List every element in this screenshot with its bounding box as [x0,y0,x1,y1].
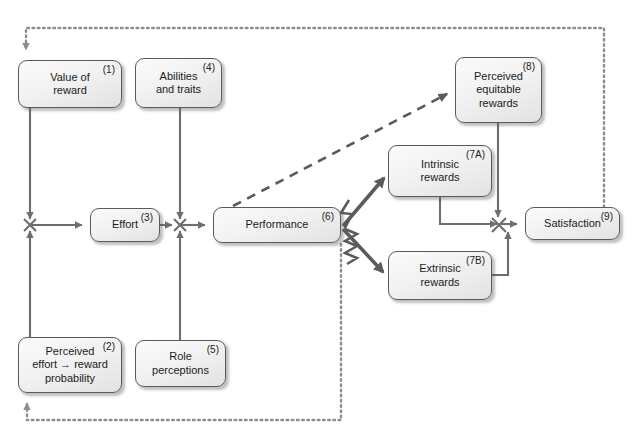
node-label: Satisfaction [538,217,607,231]
node-number: (1) [103,64,115,75]
node-label: Role perceptions [146,350,215,377]
wire-performance-to-intrinsic-rewards [341,178,384,228]
node-label: Value of reward [44,71,96,98]
node-number: (6) [322,211,334,222]
node-label: Perceived equitable rewards [468,70,529,111]
node-perceived-effort-reward-probability[interactable]: (2) Perceived effort → reward probabilit… [18,337,122,393]
node-abilities-and-traits[interactable]: (4) Abilities and traits [135,58,222,108]
node-label: Extrinsic rewards [413,262,467,289]
node-label: Perceived effort → reward probability [26,345,114,386]
node-number: (3) [141,212,153,223]
node-effort[interactable]: (3) Effort [90,208,160,242]
node-label: Intrinsic rewards [414,158,465,185]
node-intrinsic-rewards[interactable]: (7A) Intrinsic rewards [388,145,492,197]
node-number: (5) [207,344,219,355]
node-number: (8) [523,61,535,72]
node-perceived-equitable-rewards[interactable]: (8) Perceived equitable rewards [455,57,542,123]
wire-extrinsic-rewards-to-satisfaction-junction [492,232,508,275]
diagram-canvas: (1) Value of reward (4) Abilities and tr… [0,0,638,440]
wire-performance-to-extrinsic-rewards [343,229,383,272]
node-number: (7A) [466,149,485,160]
node-value-of-reward[interactable]: (1) Value of reward [18,60,122,108]
node-role-perceptions[interactable]: (5) Role perceptions [135,340,226,387]
node-label: Performance [240,218,315,232]
node-number: (7B) [466,255,485,266]
node-satisfaction[interactable]: (9) Satisfaction [525,207,620,240]
node-label: Effort [106,218,144,232]
node-number: (2) [103,341,115,352]
wire-performance-feedback-to-perceived-probability [27,244,341,420]
node-label: Abilities and traits [150,70,207,97]
wire-intrinsic-rewards-to-satisfaction-junction [440,197,497,224]
node-performance[interactable]: (6) Performance [213,207,341,243]
node-extrinsic-rewards[interactable]: (7B) Extrinsic rewards [388,251,492,300]
node-number: (4) [203,62,215,73]
node-number: (9) [601,211,613,222]
